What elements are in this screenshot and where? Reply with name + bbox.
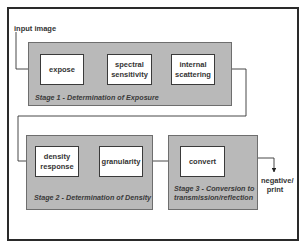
expose-label: expose bbox=[49, 65, 75, 74]
density-response-label-line2: response bbox=[40, 162, 73, 171]
expose-box: expose bbox=[40, 54, 84, 85]
input-image-label: input image bbox=[14, 24, 56, 33]
granularity-label: granularity bbox=[102, 157, 141, 166]
spectral-sensitivity-label-line1: spectral bbox=[115, 60, 144, 69]
stage-3-label-line2: transmission/reflection bbox=[174, 193, 254, 202]
connector-lines bbox=[0, 0, 307, 250]
stage-1-label: Stage 1 - Determination of Exposure bbox=[35, 93, 159, 102]
negative-print-label-line2: print bbox=[261, 185, 289, 194]
spectral-sensitivity-box: spectral sensitivity bbox=[107, 54, 152, 85]
convert-box: convert bbox=[180, 146, 225, 177]
granularity-box: granularity bbox=[99, 146, 143, 177]
spectral-sensitivity-label-line2: sensitivity bbox=[111, 70, 148, 79]
stage-3-label-line1: Stage 3 - Conversion to bbox=[174, 184, 254, 193]
stage-2-label: Stage 2 - Determination of Density bbox=[34, 193, 151, 202]
convert-label: convert bbox=[189, 157, 216, 166]
stage-3-label: Stage 3 - Conversion to transmission/ref… bbox=[174, 184, 254, 202]
density-response-label-line1: density bbox=[44, 152, 70, 161]
internal-scattering-box: internal scattering bbox=[171, 54, 215, 85]
negative-print-label-line1: negative/ bbox=[261, 176, 289, 185]
density-response-box: density response bbox=[35, 146, 79, 177]
negative-print-label: negative/ print bbox=[261, 176, 289, 195]
internal-scattering-label-line1: internal bbox=[179, 60, 206, 69]
internal-scattering-label-line2: scattering bbox=[175, 70, 211, 79]
